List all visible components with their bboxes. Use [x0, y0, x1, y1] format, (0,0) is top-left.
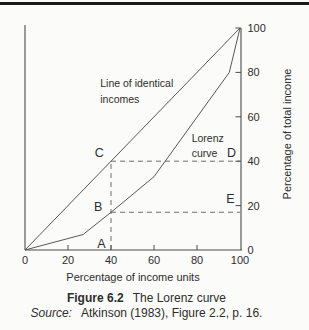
figure-title: The Lorenz curve: [133, 291, 226, 305]
point-label-D: D: [227, 146, 236, 160]
x-tick-label: 40: [105, 254, 117, 266]
x-tick-label: 80: [191, 254, 203, 266]
y-axis-label: Percentage of total income: [281, 69, 293, 200]
point-label-C: C: [95, 146, 104, 160]
y-tick-label: 80: [248, 66, 260, 78]
series-label: Lorenz: [192, 132, 224, 144]
point-label-B: B: [94, 200, 102, 214]
x-axis-label: Percentage of income units: [66, 271, 200, 283]
source-label: Source:: [31, 306, 72, 320]
point-label-A: A: [97, 237, 106, 251]
point-label-E: E: [226, 192, 234, 206]
series-label: incomes: [100, 93, 139, 105]
series-label: curve: [192, 147, 218, 159]
series-label: Line of identical: [100, 77, 173, 89]
figure-caption-title-line: Figure 6.2The Lorenz curve: [0, 291, 293, 306]
y-tick-label: 100: [248, 22, 266, 34]
dashed-guides: [111, 161, 240, 250]
y-tick-label: 0: [248, 244, 254, 256]
x-axis-ticks: 020406080100: [22, 245, 249, 266]
lorenz-curve-chart: 020406080100 020406080100 ABCDE Line of …: [0, 0, 309, 292]
source-text: Atkinson (1983), Figure 2.2, p. 16.: [81, 306, 262, 320]
x-tick-label: 60: [148, 254, 160, 266]
book-figure-page: 020406080100 020406080100 ABCDE Line of …: [0, 0, 309, 330]
figure-caption-source-line: Source:Atkinson (1983), Figure 2.2, p. 1…: [0, 306, 293, 321]
y-tick-label: 60: [248, 111, 260, 123]
series-labels: Line of identicalincomesLorenzcurve: [100, 77, 223, 159]
figure-caption: Figure 6.2The Lorenz curve Source:Atkins…: [0, 291, 293, 321]
x-tick-label: 100: [231, 254, 249, 266]
x-tick-label: 20: [62, 254, 74, 266]
y-tick-label: 40: [248, 155, 260, 167]
figure-number: Figure 6.2: [67, 291, 124, 305]
x-tick-label: 0: [22, 254, 28, 266]
y-tick-label: 20: [248, 200, 260, 212]
y-axis-ticks: 020406080100: [236, 22, 266, 256]
